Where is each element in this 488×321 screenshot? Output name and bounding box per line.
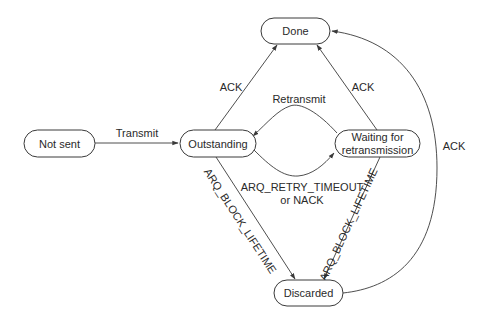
state-outstanding: Outstanding xyxy=(180,130,256,157)
state-label-waiting-line1: Waiting for xyxy=(351,131,404,143)
edge-outstanding-discarded: ARQ_BLOCK_LIFETIME xyxy=(202,157,295,279)
state-discarded: Discarded xyxy=(274,280,343,306)
state-label-outstanding: Outstanding xyxy=(188,138,247,150)
edge-label-ack-waiting: ACK xyxy=(352,81,375,93)
edge-label-ack-outstanding: ACK xyxy=(220,81,243,93)
edge-label-retry-timeout-line2: or NACK xyxy=(280,194,324,206)
state-done: Done xyxy=(261,18,330,44)
edge-waiting-discarded: ARQ_BLOCK_LIFETIME xyxy=(317,157,380,283)
state-not-sent: Not sent xyxy=(24,130,95,157)
state-label-not-sent: Not sent xyxy=(39,138,80,150)
edge-waiting-ack: ACK xyxy=(317,45,377,130)
edge-outstanding-ack: ACK xyxy=(215,45,277,130)
state-diagram: Transmit ACK ACK Retransmit ARQ_RETRY_TI… xyxy=(0,0,488,321)
edge-transmit: Transmit xyxy=(95,127,178,143)
state-label-waiting-line2: retransmission xyxy=(342,144,414,156)
state-label-discarded: Discarded xyxy=(284,287,334,299)
state-waiting-for-retransmission: Waiting for retransmission xyxy=(335,130,420,157)
edge-label-ack-discarded: ACK xyxy=(443,140,466,152)
edge-retry-timeout: ARQ_RETRY_TIMEOUT or NACK xyxy=(241,150,364,206)
edge-label-transmit: Transmit xyxy=(116,127,158,139)
edge-label-retransmit: Retransmit xyxy=(272,93,325,105)
edge-label-retry-timeout-line1: ARQ_RETRY_TIMEOUT xyxy=(241,181,364,193)
state-label-done: Done xyxy=(282,25,308,37)
edge-discarded-done: ACK xyxy=(332,31,466,293)
edge-retransmit: Retransmit xyxy=(253,93,337,136)
